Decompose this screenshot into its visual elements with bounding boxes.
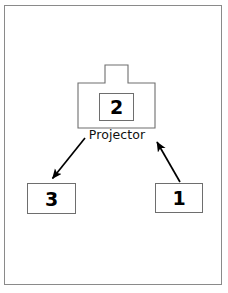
node-box-3-label: 3 xyxy=(45,188,58,210)
figure-container: 2 Projector 3 1 xyxy=(0,0,228,293)
node-box-3: 3 xyxy=(27,183,76,214)
diagram-canvas xyxy=(0,0,228,293)
arrow-node-1-to-projector xyxy=(157,142,180,182)
arrow-projector-to-node-3 xyxy=(53,138,86,179)
projector-inner-box: 2 xyxy=(99,93,134,121)
projector-caption: Projector xyxy=(78,127,156,142)
node-box-1: 1 xyxy=(155,183,203,213)
projector-inner-box-label: 2 xyxy=(110,96,123,118)
node-box-1-label: 1 xyxy=(172,187,185,209)
